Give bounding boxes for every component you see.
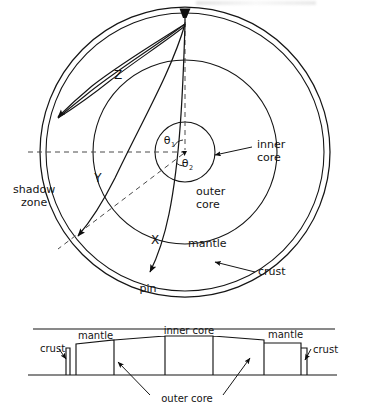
- profile-outer-core-label: outer core: [161, 393, 212, 404]
- ray-y-label: Y: [93, 171, 102, 185]
- profile-crust-right-label: crust: [313, 344, 338, 355]
- outer-core-leader-left: [118, 362, 150, 395]
- profile-step-curve: [66, 336, 307, 375]
- profile-mantle-left-label: mantle: [78, 330, 113, 341]
- profile-crust-left-label: crust: [40, 343, 65, 354]
- profile-inner-core-label: inner core: [164, 325, 215, 336]
- inner-core-leader: [215, 147, 252, 155]
- outer-core-label-line2: core: [196, 198, 220, 211]
- mantle-label: mantle: [188, 237, 227, 250]
- diagram-svg: Z Y X θ 1 θ 2 inner core outer core mant…: [0, 0, 367, 404]
- svg-text:θ: θ: [164, 134, 171, 147]
- shadow-zone-label-line2: zone: [21, 196, 47, 209]
- pin-label: pin: [139, 282, 156, 295]
- ray-x-label: X: [151, 233, 159, 247]
- crust-leader-right: [305, 349, 311, 360]
- svg-text:2: 2: [189, 164, 193, 172]
- crust-leader: [215, 262, 255, 272]
- seismic-ray-diagram: Z Y X θ 1 θ 2 inner core outer core mant…: [0, 0, 367, 404]
- svg-text:θ: θ: [182, 157, 189, 170]
- inner-core-label-line1: inner: [257, 138, 286, 151]
- inner-core-label-line2: core: [257, 151, 281, 164]
- crust-label: crust: [258, 265, 286, 278]
- theta-2-label: θ 2: [182, 157, 193, 172]
- unrolled-profile: crust mantle inner core mantle crust out…: [28, 325, 338, 404]
- centre-marker: [182, 151, 187, 156]
- outer-core-leader-right: [223, 358, 250, 395]
- shadow-zone-label-line1: shadow: [13, 183, 55, 196]
- profile-mantle-right-label: mantle: [268, 329, 303, 340]
- svg-text:1: 1: [171, 141, 175, 149]
- ray-y-path: [78, 24, 185, 236]
- earth-cross-section: Z Y X θ 1 θ 2 inner core outer core mant…: [13, 7, 330, 297]
- outer-core-label-line1: outer: [196, 185, 226, 198]
- theta-1-label: θ 1: [164, 134, 175, 149]
- ray-z-label: Z: [114, 68, 122, 82]
